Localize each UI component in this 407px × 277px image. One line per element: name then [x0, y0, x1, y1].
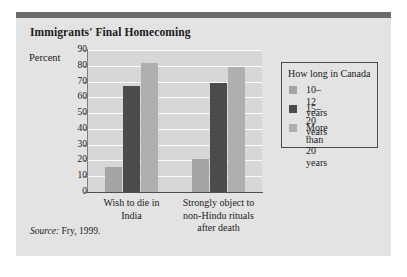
source-note: Source: Fry, 1999.: [30, 226, 100, 236]
bar: [192, 159, 209, 192]
gridline: [88, 50, 262, 51]
legend-item-label: More than 20 years: [306, 122, 328, 168]
y-axis-tick-mark: [83, 129, 87, 130]
bar: [141, 63, 158, 192]
legend-swatch-icon: [289, 105, 297, 113]
figure-panel: Immigrants' Final Homecoming Percent 010…: [16, 12, 391, 256]
x-axis-line: [87, 192, 263, 193]
y-axis-tick-mark: [83, 113, 87, 114]
plot-wrapper: 0102030405060708090Wish to die in IndiaS…: [72, 45, 262, 193]
legend-title: How long in Canada: [288, 68, 371, 79]
y-axis-tick-mark: [83, 97, 87, 98]
y-axis-tick-mark: [83, 192, 87, 193]
y-axis-tick-mark: [83, 66, 87, 67]
x-axis-category-label: Wish to die in India: [82, 197, 181, 222]
bar: [123, 86, 140, 192]
y-axis-label: Percent: [29, 52, 61, 63]
bar: [228, 67, 245, 192]
top-rule-divider: [16, 12, 391, 18]
x-axis-category-label: Strongly object to non-Hindu rituals aft…: [169, 197, 268, 235]
y-axis-tick-mark: [83, 82, 87, 83]
y-axis-tick-mark: [83, 50, 87, 51]
legend-swatch-icon: [289, 86, 297, 94]
legend-swatch-icon: [289, 124, 297, 132]
source-label: Source:: [30, 226, 59, 236]
plot-area: [88, 50, 262, 192]
source-text: Fry, 1999.: [59, 226, 100, 236]
page-title: Immigrants' Final Homecoming: [30, 26, 191, 38]
y-axis-tick-mark: [83, 176, 87, 177]
y-axis-line: [87, 49, 88, 193]
legend: How long in Canada 10–12 years15–20 year…: [281, 62, 378, 148]
y-axis-tick-mark: [83, 160, 87, 161]
bar: [210, 83, 227, 192]
y-axis-tick-mark: [83, 145, 87, 146]
bar: [105, 167, 122, 192]
